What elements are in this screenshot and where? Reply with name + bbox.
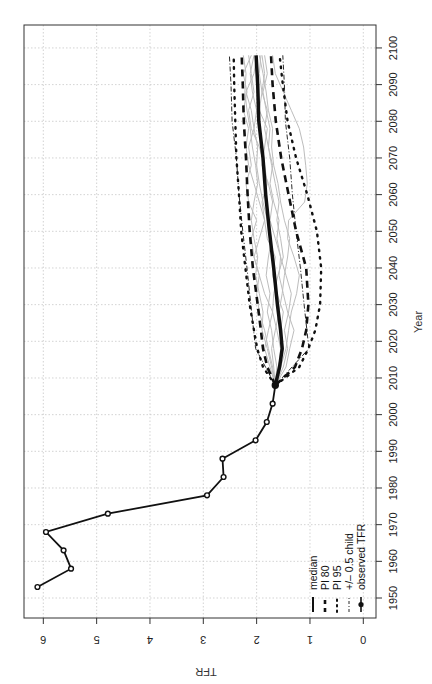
observed-point	[220, 456, 225, 461]
observed-point	[264, 420, 269, 425]
tfr-tick-label: 6	[40, 634, 46, 646]
year-tick-label: 2100	[387, 36, 399, 60]
tfr-tick-label: 5	[94, 634, 100, 646]
year-tick-label: 2080	[387, 109, 399, 133]
observed-point	[35, 585, 40, 590]
observed-point	[205, 493, 210, 498]
year-tick-label: 1960	[387, 549, 399, 573]
year-axis: 1950196019701980199020002010202020302040…	[376, 36, 399, 610]
legend-label: observed TFR	[355, 523, 367, 590]
tfr-tick-label: 1	[307, 634, 313, 646]
observed-point	[44, 530, 49, 535]
observed-point	[61, 548, 66, 553]
legend-label: PI 95	[331, 565, 343, 590]
year-tick-label: 1950	[387, 586, 399, 610]
tfr-tick-label: 3	[200, 634, 206, 646]
plot-frame	[24, 25, 376, 618]
tfr-tick-label: 4	[147, 634, 153, 646]
legend: medianPI 80PI 95+/– 0.5 childobserved TF…	[307, 523, 367, 612]
tfr-projection-chart: 1950196019701980199020002010202020302040…	[0, 0, 432, 684]
legend-label: +/– 0.5 child	[343, 533, 355, 590]
legend-marker-icon	[358, 602, 363, 607]
grid-lines	[24, 25, 376, 618]
year-tick-label: 1980	[387, 476, 399, 500]
year-tick-label: 2090	[387, 72, 399, 96]
observed-point	[221, 475, 226, 480]
year-tick-label: 1970	[387, 512, 399, 536]
tfr-tick-label: 2	[254, 634, 260, 646]
legend-label: PI 80	[319, 565, 331, 590]
observed-point	[105, 511, 110, 516]
series-lines	[35, 55, 321, 589]
observed-point	[69, 566, 74, 571]
series-observed-tfr	[38, 385, 276, 587]
tfr-tick-label: 0	[360, 634, 366, 646]
observed-point	[253, 438, 258, 443]
year-tick-label: 1990	[387, 439, 399, 463]
year-tick-label: 2020	[387, 329, 399, 353]
year-axis-title: Year	[412, 311, 424, 334]
year-tick-label: 2040	[387, 256, 399, 280]
tfr-axis-title: TFR	[195, 666, 216, 678]
year-tick-label: 2060	[387, 182, 399, 206]
legend-label: median	[307, 555, 319, 590]
year-tick-label: 2010	[387, 366, 399, 390]
year-tick-label: 2070	[387, 146, 399, 170]
year-tick-label: 2000	[387, 402, 399, 426]
year-tick-label: 2050	[387, 219, 399, 243]
year-tick-label: 2030	[387, 292, 399, 316]
observed-point	[270, 401, 275, 406]
tfr-axis: 0123456	[40, 618, 366, 646]
